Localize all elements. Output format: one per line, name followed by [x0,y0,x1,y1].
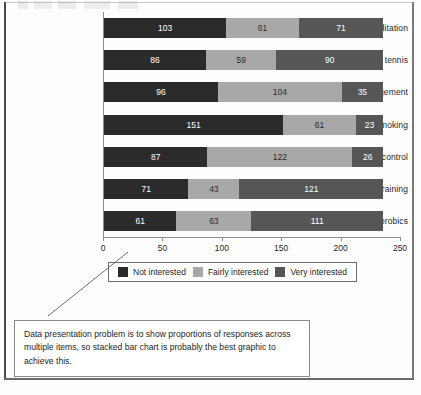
bar-segment: 61 [283,115,355,135]
axis-tick-mark [222,237,223,241]
bar-segment: 90 [276,50,383,70]
axis-tick-mark [400,237,401,241]
bar-segment: 63 [176,211,251,231]
axis-tick-label: 50 [158,243,167,253]
bar-segment: 104 [218,82,342,102]
bar-segment: 71 [299,18,383,38]
bar-segment: 122 [207,147,352,167]
legend-swatch-icon-very-interested [275,267,285,277]
scan-border-bottom [4,378,414,380]
category-axis-line [103,237,400,238]
scan-border-right [412,2,414,380]
bar-segment: 96 [104,82,218,102]
scan-border-left [4,2,6,380]
legend-swatch-icon-fairly-interested [193,267,203,277]
legend-item-fairly-interested: Fairly interested [193,267,268,277]
legend-label-very-interested: Very interested [290,267,347,277]
bar-segment: 103 [104,18,226,38]
bar-segment: 61 [226,18,298,38]
bar-segment: 35 [342,82,384,102]
bar-segment: 61 [104,211,176,231]
bar-segment: 111 [251,211,383,231]
bar-segment: 23 [356,115,383,135]
annotation-text: Data presentation problem is to show pro… [24,328,300,368]
legend-item-very-interested: Very interested [275,267,347,277]
axis-tick-label: 250 [393,243,407,253]
annotation-callout-box: Data presentation problem is to show pro… [14,320,310,377]
axis-tick-mark [341,237,342,241]
axis-tick-label: 200 [334,243,348,253]
bar-segment: 86 [104,50,206,70]
callout-leader-line [46,250,130,318]
bar-segment: 59 [206,50,276,70]
scan-artifact-top-text [18,1,178,9]
axis-tick-mark [281,237,282,241]
bar-segment: 121 [239,179,383,199]
axis-tick-label: 100 [215,243,229,253]
legend-swatch-icon-not-interested [118,267,128,277]
legend-item-not-interested: Not interested [118,267,186,277]
bar-segment: 26 [352,147,383,167]
axis-tick-label: 150 [274,243,288,253]
axis-tick-mark [162,237,163,241]
bar-segment: 87 [104,147,207,167]
axis-tick-label: 0 [101,243,106,253]
chart-legend: Not interested Fairly interested Very in… [108,262,357,282]
bar-segment: 151 [104,115,283,135]
legend-label-not-interested: Not interested [133,267,186,277]
bar-segment: 71 [104,179,188,199]
bar-segment: 43 [188,179,239,199]
page-canvas: MeditationTable tennisStress managementA… [0,0,421,395]
axis-tick-mark [103,237,104,241]
plot-area: 050100150200250 103617186599096104351516… [103,12,400,237]
stacked-bar-chart: MeditationTable tennisStress managementA… [10,12,408,244]
legend-label-fairly-interested: Fairly interested [208,267,268,277]
